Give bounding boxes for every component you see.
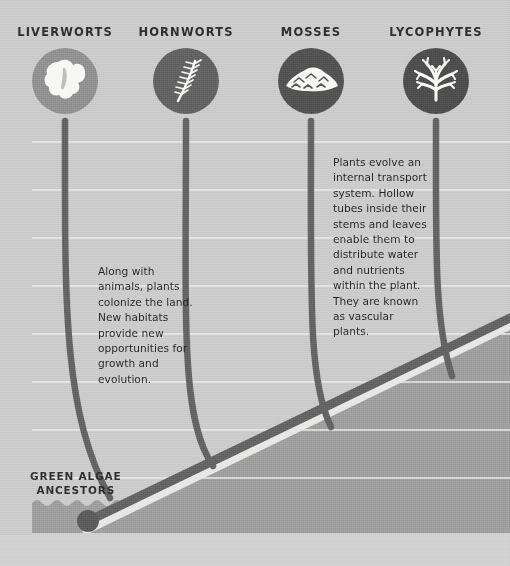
origin-node [77, 510, 99, 532]
origin-caption-line-2: ANCESTORS [30, 483, 122, 497]
foot-strip [0, 533, 510, 566]
note-text: Along with animals, plants colonize the … [98, 264, 196, 387]
taxon-lycophytes[interactable]: LYCOPHYTES [371, 25, 501, 114]
origin-caption: GREEN ALGAE ANCESTORS [30, 469, 122, 497]
note-text: Plants evolve an internal transport syst… [333, 155, 429, 340]
taxon-liverworts[interactable]: LIVERWORTS [0, 25, 130, 114]
taxon-mosses[interactable]: MOSSES [246, 25, 376, 114]
lycophyte-branching-icon [403, 48, 469, 114]
taxon-label: HORNWORTS [121, 25, 251, 39]
taxon-hornworts[interactable]: HORNWORTS [121, 25, 251, 114]
note-vascular: Plants evolve an internal transport syst… [333, 155, 429, 340]
liverwort-thallus-icon [32, 48, 98, 114]
moss-cushion-icon [278, 48, 344, 114]
branch-mosses [311, 121, 331, 427]
hornwort-frond-icon [153, 48, 219, 114]
taxon-label: MOSSES [246, 25, 376, 39]
branch-lycophytes [436, 121, 452, 376]
left-margin-strip [0, 480, 32, 535]
note-colonization: Along with animals, plants colonize the … [98, 264, 196, 387]
origin-caption-line-1: GREEN ALGAE [30, 469, 122, 483]
taxon-label: LYCOPHYTES [371, 25, 501, 39]
taxon-label: LIVERWORTS [0, 25, 130, 39]
evolution-infographic: LIVERWORTS HORNWORTS [0, 0, 510, 566]
